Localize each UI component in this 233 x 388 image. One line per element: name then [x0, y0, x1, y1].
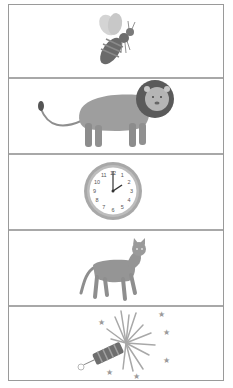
clock-numeral: 1 — [121, 172, 124, 178]
lion-icon — [33, 79, 185, 153]
svg-text:★: ★ — [106, 368, 113, 377]
clock-numeral: 2 — [127, 179, 130, 185]
clock-numeral: 8 — [95, 197, 98, 203]
panel-cat — [9, 231, 223, 305]
panel-lion — [9, 79, 223, 153]
firework-icon: ★ ★ ★ ★ ★ ★ — [71, 309, 175, 379]
panel-clock: 121234567891011 — [9, 155, 223, 229]
svg-text:★: ★ — [98, 318, 105, 327]
clock-icon: 121234567891011 — [82, 160, 144, 222]
svg-text:★: ★ — [163, 356, 170, 365]
clock-numeral: 9 — [93, 188, 96, 194]
clock-numeral: 3 — [130, 188, 133, 194]
clock-numeral: 4 — [127, 197, 130, 203]
clock-numeral: 11 — [101, 172, 107, 178]
worksheet-frame: 121234567891011 — [8, 4, 224, 381]
svg-text:★: ★ — [158, 310, 165, 319]
clock-numeral: 6 — [111, 207, 114, 213]
clock-numeral: 10 — [94, 179, 100, 185]
clock-numeral: 5 — [121, 204, 124, 210]
cat-icon — [77, 237, 155, 303]
bee-icon — [91, 11, 147, 71]
svg-text:★: ★ — [163, 328, 170, 337]
clock-numeral: 7 — [102, 204, 105, 210]
panel-firework: ★ ★ ★ ★ ★ ★ — [9, 307, 223, 380]
svg-text:★: ★ — [133, 372, 140, 379]
panel-bee — [9, 5, 223, 78]
